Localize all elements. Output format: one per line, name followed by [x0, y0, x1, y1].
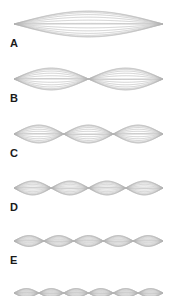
standing-wave-harmonics-figure: ABCDE	[0, 0, 175, 296]
standing-wave-mode-f	[0, 0, 175, 296]
